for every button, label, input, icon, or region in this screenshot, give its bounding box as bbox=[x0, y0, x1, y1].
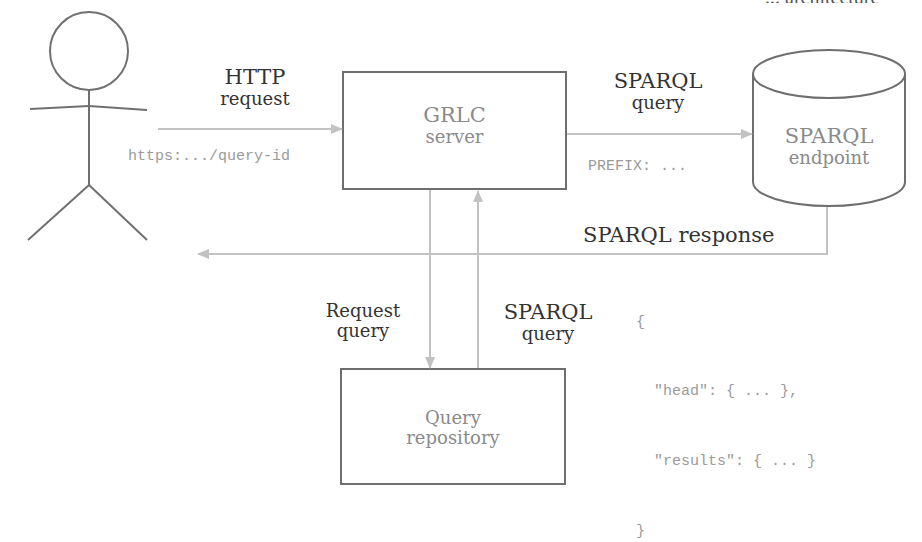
http-request-label-line2: request bbox=[205, 89, 305, 109]
response-body-line: "head": { ... }, bbox=[636, 380, 816, 403]
query-repository-label-line1: Query bbox=[341, 408, 565, 428]
http-request-label: HTTP request bbox=[205, 66, 305, 109]
repo-sparql-query-label: SPARQL query bbox=[493, 301, 603, 344]
http-request-label-line1: HTTP bbox=[205, 66, 305, 89]
user-actor-icon bbox=[28, 12, 147, 240]
response-body-line: } bbox=[636, 520, 816, 542]
response-body-line: { bbox=[636, 311, 816, 334]
grlc-server-label-line2: server bbox=[343, 127, 566, 147]
sparql-endpoint-label-line2: endpoint bbox=[753, 148, 905, 168]
repo-sparql-query-label-line1: SPARQL bbox=[493, 301, 603, 324]
response-body: { "head": { ... }, "results": { ... } } bbox=[636, 264, 816, 542]
request-query-label: Request query bbox=[318, 301, 408, 341]
sparql-query-label: SPARQL query bbox=[598, 70, 718, 113]
sparql-query-label-line1: SPARQL bbox=[598, 70, 718, 93]
request-query-label-line1: Request bbox=[318, 301, 408, 321]
sparql-endpoint-label-line1: SPARQL bbox=[753, 125, 905, 148]
response-body-line: "results": { ... } bbox=[636, 450, 816, 473]
sparql-response-label: SPARQL response bbox=[583, 224, 774, 247]
sparql-endpoint-label: SPARQL endpoint bbox=[753, 125, 905, 168]
grlc-server-label: GRLC server bbox=[343, 104, 566, 147]
http-request-url: https:.../query-id bbox=[128, 145, 290, 168]
sparql-query-label-line2: query bbox=[598, 93, 718, 113]
sparql-query-code: PREFIX: ... bbox=[588, 155, 687, 178]
query-repository-label-line2: repository bbox=[341, 428, 565, 448]
repo-sparql-query-label-line2: query bbox=[493, 324, 603, 344]
request-query-label-line2: query bbox=[318, 321, 408, 341]
grlc-server-label-line1: GRLC bbox=[343, 104, 566, 127]
query-repository-label: Query repository bbox=[341, 408, 565, 448]
